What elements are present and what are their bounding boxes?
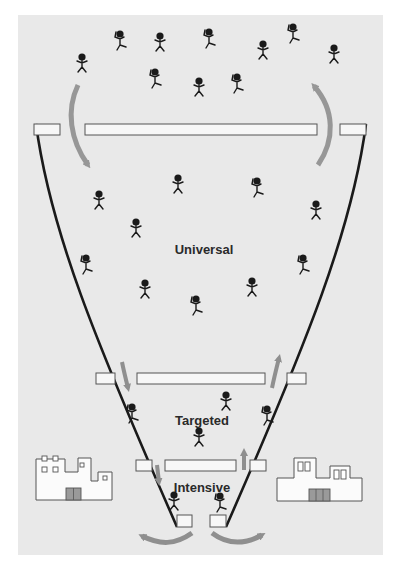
tier-label-intensive: Intensive xyxy=(174,480,230,495)
tier-label-targeted: Targeted xyxy=(175,413,229,428)
tier-label-universal: Universal xyxy=(175,242,234,257)
funnel-diagram: Universal Targeted Intensive xyxy=(0,0,398,563)
arrow-to-intensive-icon xyxy=(157,465,159,482)
